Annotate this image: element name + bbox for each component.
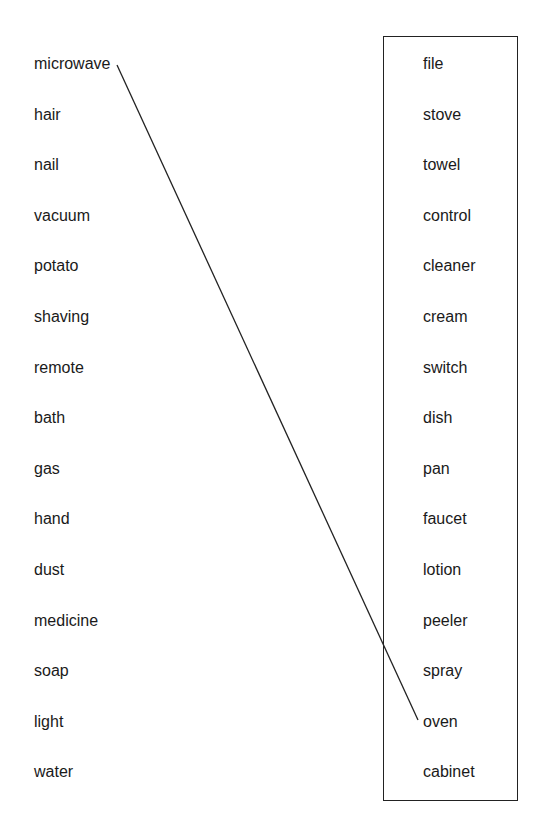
connection-lines [0, 0, 545, 837]
connection-line-microwave-oven[interactable] [117, 65, 418, 720]
